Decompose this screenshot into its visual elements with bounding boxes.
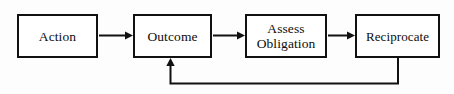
node-outcome: Outcome (133, 14, 212, 58)
node-outcome-label: Outcome (145, 29, 199, 44)
edge-action-to-outcome (99, 32, 133, 40)
node-action: Action (17, 14, 98, 58)
node-reciprocate: Reciprocate (355, 14, 440, 58)
edge-reciprocate-to-outcome-feedback (166, 58, 398, 84)
node-assess-obligation: Assess Obligation (245, 14, 327, 58)
node-assess-obligation-label: Assess Obligation (255, 21, 318, 51)
process-flow-diagram: Action Outcome Assess Obligation Recipro… (0, 0, 454, 94)
node-action-label: Action (37, 29, 78, 44)
edge-outcome-to-assess (213, 32, 245, 40)
node-reciprocate-label: Reciprocate (364, 29, 431, 44)
edge-assess-to-reciprocate (328, 32, 355, 40)
